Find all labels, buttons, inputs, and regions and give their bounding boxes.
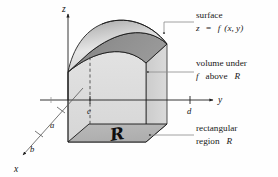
x-axis-label: x	[13, 164, 19, 174]
surface-eq-z: z	[195, 23, 200, 33]
tick-label-c: c	[87, 106, 91, 116]
tick-label-d: d	[187, 106, 192, 116]
region-label-region: region	[196, 136, 220, 146]
volume-label-f: f	[196, 71, 200, 81]
volume-label-line1: volume under	[196, 58, 247, 68]
volume-label-R: R	[234, 71, 241, 81]
figure-container: R	[0, 0, 278, 177]
z-axis-label: z	[61, 4, 66, 14]
volume-under-surface-diagram: R	[0, 0, 278, 177]
tick-label-b: b	[30, 144, 35, 154]
region-label-R: R	[225, 136, 232, 146]
y-axis-label: y	[217, 95, 223, 105]
tick-label-a: a	[50, 120, 54, 130]
surface-eq-args: (x, y)	[224, 23, 243, 33]
region-label-line1: rectangular	[196, 123, 237, 133]
volume-label-above: above	[206, 71, 228, 81]
surface-eq-equals: =	[206, 23, 211, 33]
region-R-glyph: R	[108, 123, 126, 145]
surface-eq-f: f	[218, 23, 222, 33]
